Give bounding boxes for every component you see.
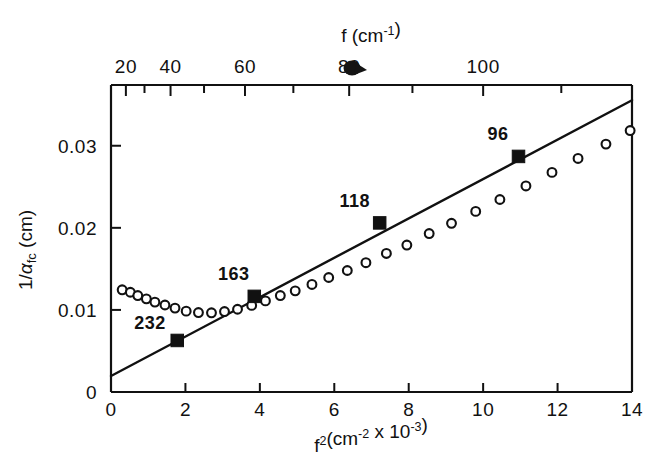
x-tick-label: 4 bbox=[254, 399, 265, 420]
data-point-open bbox=[362, 258, 371, 267]
data-point-open bbox=[447, 219, 456, 228]
data-point-open bbox=[308, 280, 317, 289]
scatter-plot: 20406080100 02468101214 00.010.020.03 23… bbox=[0, 0, 661, 476]
x-axis-labels: 02468101214 bbox=[105, 399, 643, 420]
data-point-label: 118 bbox=[339, 191, 370, 211]
data-point-filled bbox=[171, 334, 184, 347]
top-axis-labels: 20406080100 bbox=[115, 56, 500, 77]
top-axis-title: f (cm-1) bbox=[341, 18, 401, 46]
data-point-open bbox=[471, 207, 480, 216]
ink-smudge-artifact bbox=[344, 61, 368, 76]
x-tick-label: 8 bbox=[403, 399, 414, 420]
top-tick-label: 20 bbox=[115, 56, 137, 77]
data-point-open bbox=[171, 304, 180, 313]
data-point-filled bbox=[373, 217, 386, 230]
data-point-open bbox=[194, 308, 203, 317]
y-tick-label: 0.03 bbox=[58, 136, 97, 157]
x-tick-label: 6 bbox=[329, 399, 340, 420]
data-point-open bbox=[133, 291, 142, 300]
data-point-filled bbox=[512, 150, 525, 163]
data-point-open bbox=[574, 154, 583, 163]
data-point-open bbox=[425, 229, 434, 238]
data-point-open bbox=[207, 308, 216, 317]
data-point-open bbox=[291, 286, 300, 295]
y-tick-label: 0.01 bbox=[58, 300, 97, 321]
data-point-open bbox=[343, 266, 352, 275]
data-point-open bbox=[522, 182, 531, 191]
y-tick-label: 0.02 bbox=[58, 218, 97, 239]
fit-line bbox=[111, 100, 632, 376]
data-point-open bbox=[276, 291, 285, 300]
x-tick-label: 14 bbox=[621, 399, 643, 420]
top-axis-ticks bbox=[126, 85, 561, 96]
x-axis-title: f2(cm-2 x 10-3) bbox=[314, 414, 428, 456]
x-tick-label: 2 bbox=[180, 399, 191, 420]
fit-line-segment bbox=[111, 100, 632, 376]
data-point-open bbox=[548, 168, 557, 177]
x-tick-label: 10 bbox=[472, 399, 494, 420]
data-point-open bbox=[151, 298, 160, 307]
data-point-open bbox=[182, 307, 191, 316]
top-tick-label: 40 bbox=[159, 56, 181, 77]
figure-container: 20406080100 02468101214 00.010.020.03 23… bbox=[0, 0, 661, 476]
data-point-open bbox=[495, 195, 504, 204]
data-point-open bbox=[220, 307, 229, 316]
y-tick-label: 0 bbox=[86, 382, 97, 403]
top-tick-label: 100 bbox=[467, 56, 500, 77]
x-tick-label: 12 bbox=[547, 399, 569, 420]
y-axis-title-group: 1/αfc (cm) bbox=[15, 210, 39, 290]
data-point-open bbox=[233, 305, 242, 314]
top-tick-label: 60 bbox=[234, 56, 256, 77]
data-point-open bbox=[161, 301, 170, 310]
data-point-open bbox=[324, 273, 333, 282]
y-axis-labels: 00.010.020.03 bbox=[58, 136, 97, 403]
data-point-open bbox=[602, 140, 611, 149]
data-point-filled bbox=[248, 290, 261, 303]
y-axis-title: 1/αfc (cm) bbox=[15, 210, 39, 290]
x-tick-label: 0 bbox=[105, 399, 116, 420]
data-point-open bbox=[261, 296, 270, 305]
x-axis-ticks bbox=[185, 383, 557, 392]
data-point-open bbox=[402, 241, 411, 250]
data-point-open bbox=[382, 249, 391, 258]
data-point-label: 96 bbox=[488, 124, 509, 144]
data-point-open bbox=[142, 294, 151, 303]
data-point-label: 163 bbox=[218, 264, 250, 284]
data-point-label: 232 bbox=[134, 313, 166, 333]
data-point-open bbox=[626, 126, 635, 135]
